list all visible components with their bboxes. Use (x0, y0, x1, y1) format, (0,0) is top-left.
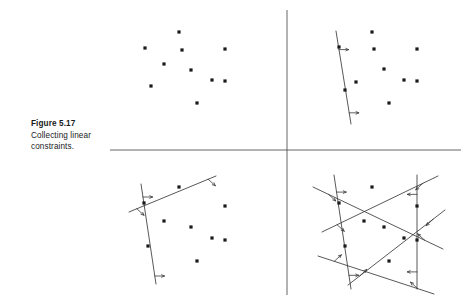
constraint-line (408, 175, 418, 289)
data-point (180, 48, 183, 51)
data-point (177, 30, 180, 33)
data-point (189, 68, 192, 71)
panel-bottom-left (129, 176, 227, 284)
constraint-tick-shaft (208, 179, 215, 185)
constraint-line (334, 175, 358, 289)
constraint-tick-shaft (334, 255, 341, 261)
constraint-line (129, 176, 216, 215)
data-point (189, 225, 192, 228)
data-point (415, 204, 418, 207)
figure-caption-title: Figure 5.17 (31, 118, 117, 130)
constraint-line (336, 31, 359, 124)
data-point (162, 219, 165, 222)
data-point (370, 185, 373, 188)
data-point (402, 236, 405, 239)
panel-top-right (336, 30, 419, 124)
panel-bottom-right (313, 175, 445, 294)
constraint-line-stroke (313, 187, 443, 249)
constraint-line-stroke (141, 184, 156, 284)
data-point (370, 30, 373, 33)
data-point (402, 78, 405, 81)
data-point (162, 62, 165, 65)
data-point (415, 47, 418, 50)
data-point (337, 201, 340, 204)
data-point (387, 259, 390, 262)
constraint-line (313, 187, 443, 249)
data-point (415, 238, 418, 241)
constraint-line-stroke (336, 31, 351, 124)
figure-page: Figure 5.17 Collecting linear constraint… (0, 0, 469, 304)
data-point (223, 79, 226, 82)
constraint-tick-shaft (426, 219, 433, 225)
data-point (415, 79, 418, 82)
data-point (362, 219, 365, 222)
data-point (372, 47, 375, 50)
figure-caption-line-1: Collecting linear (31, 130, 117, 142)
data-point (146, 244, 149, 247)
figure-caption: Figure 5.17 Collecting linear constraint… (31, 118, 117, 153)
data-point (387, 101, 390, 104)
data-point (343, 88, 346, 91)
data-point (343, 244, 346, 247)
panel-top-left (143, 30, 226, 104)
figure-caption-line-2: constraints. (31, 141, 117, 153)
data-point (210, 78, 213, 81)
data-point (149, 84, 152, 87)
data-point (177, 185, 180, 188)
data-point (210, 236, 213, 239)
divider-lines (110, 10, 461, 295)
data-point (143, 46, 146, 49)
data-point (382, 67, 385, 70)
data-point (223, 238, 226, 241)
data-point (354, 80, 357, 83)
data-point (223, 204, 226, 207)
data-point (223, 47, 226, 50)
data-point (382, 225, 385, 228)
constraint-tick-shaft (137, 209, 144, 215)
constraint-line-stroke (129, 176, 216, 212)
data-point (195, 259, 198, 262)
data-point (142, 201, 145, 204)
data-point (195, 101, 198, 104)
constraint-tick-shaft (337, 225, 344, 231)
data-point (337, 45, 340, 48)
